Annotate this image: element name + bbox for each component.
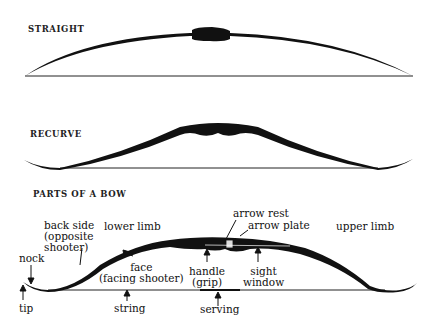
label-serving: serving [200,304,239,315]
label-handle: handle (grip) [189,266,225,288]
recurve-bow-limbs [24,123,413,170]
straight-bow-handle [192,27,230,41]
label-tip: tip [19,303,33,314]
label-arrow-rest: arrow rest [233,208,289,219]
label-upper-limb: upper limb [336,221,394,232]
parts-title: PARTS OF A BOW [33,189,126,199]
label-arrow-plate: arrow plate [248,220,310,231]
straight-bow [25,27,413,76]
label-nock: nock [19,253,44,264]
label-lower-limb: lower limb [104,221,161,232]
label-string: string [114,303,145,314]
straight-title: STRAIGHT [28,24,85,34]
label-back-side: back side (opposite shooter) [44,220,94,253]
label-face: face (facing shooter) [99,262,184,284]
recurve-bow [24,123,413,170]
arrow-plate-square [226,240,233,248]
label-sight-window: sight window [243,266,284,288]
recurve-title: RECURVE [30,129,82,139]
